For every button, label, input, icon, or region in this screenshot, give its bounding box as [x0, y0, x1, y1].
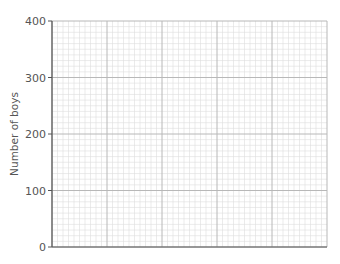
graph-paper-chart: 0100200300400 Number of boys: [0, 0, 340, 264]
y-tick-label: 400: [25, 15, 46, 28]
y-axis-label: Number of boys: [8, 92, 20, 176]
y-tick-labels: 0100200300400: [25, 15, 46, 254]
y-tick-label: 300: [25, 72, 46, 85]
y-tick-label: 0: [39, 241, 46, 254]
y-tick-label: 100: [25, 185, 46, 198]
y-tick-label: 200: [25, 128, 46, 141]
